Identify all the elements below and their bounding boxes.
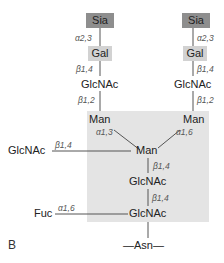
- asn-anchor: —Asn—: [123, 239, 164, 251]
- right-glcnac-label: GlcNAc: [174, 78, 211, 90]
- right-glcnac-man-link: β1,2: [197, 95, 214, 105]
- core-man-right: Man: [183, 113, 204, 125]
- glcnac-glcnac-link: β1,4: [152, 193, 169, 203]
- left-sia-box: Sia: [86, 13, 114, 28]
- left-glcnac-man-link: β1,2: [78, 95, 95, 105]
- core-glcnac-upper: GlcNAc: [129, 175, 166, 187]
- right-gal-box: Gal: [183, 46, 207, 61]
- core-man-left: Man: [89, 113, 110, 125]
- fuc-label: Fuc: [34, 207, 52, 219]
- left-sia-gal-link: α2,3: [75, 33, 92, 43]
- right-gal-glcnac-link: β1,4: [197, 64, 214, 74]
- left-gal-glcnac-link: β1,4: [76, 64, 93, 74]
- right-sia-gal-link: α2,3: [197, 33, 214, 43]
- left-gal-box: Gal: [88, 46, 112, 61]
- fuc-link: α1,6: [58, 203, 75, 213]
- core-man-right-link: α1,6: [176, 127, 193, 137]
- bisecting-glcnac-label: GlcNAc: [8, 144, 45, 156]
- right-sia-box: Sia: [182, 13, 210, 28]
- panel-letter: B: [8, 238, 16, 252]
- bisecting-link: β1,4: [55, 140, 72, 150]
- man-glcnac-link: β1,4: [153, 161, 170, 171]
- core-man-center: Man: [136, 144, 157, 156]
- core-man-left-link: α1,3: [96, 127, 113, 137]
- left-glcnac-label: GlcNAc: [81, 78, 118, 90]
- core-glcnac-lower: GlcNAc: [129, 207, 166, 219]
